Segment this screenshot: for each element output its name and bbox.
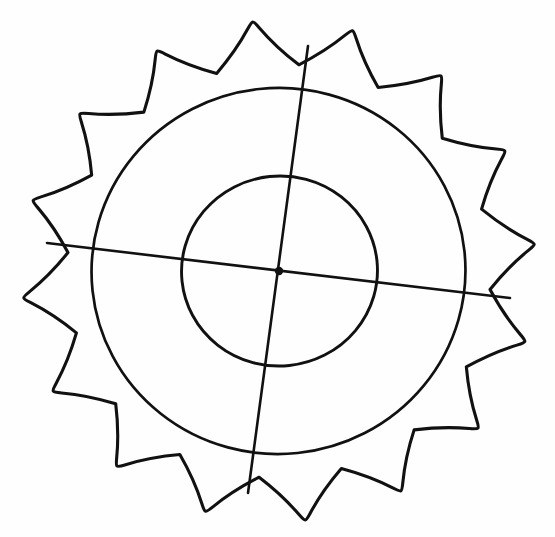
figure-canvas: Scalloped rosette line drawing with two … bbox=[0, 0, 555, 537]
rosette-drawing bbox=[0, 0, 555, 537]
center-dot bbox=[275, 267, 283, 275]
